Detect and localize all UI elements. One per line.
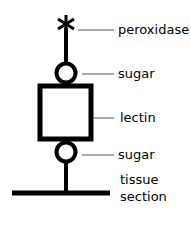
- sugar-top-circle: [57, 64, 76, 83]
- lectin-box: [40, 86, 91, 139]
- label-tissue: tissue: [120, 173, 159, 187]
- label-sugar-top: sugar: [118, 67, 155, 81]
- label-sugar-bottom: sugar: [118, 148, 155, 162]
- label-lectin: lectin: [120, 111, 156, 125]
- sugar-bottom-circle: [57, 143, 76, 162]
- label-peroxidase: peroxidase: [118, 23, 189, 37]
- label-section: section: [120, 190, 167, 204]
